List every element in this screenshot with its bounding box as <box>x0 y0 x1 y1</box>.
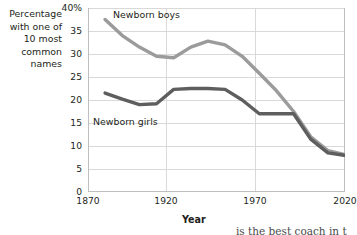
y-tick-label-30: 30 <box>56 49 82 59</box>
y-tick-label-5: 5 <box>56 164 82 174</box>
x-axis-title: Year <box>182 214 206 225</box>
y-axis-caption-line-1: Percentage <box>0 8 62 21</box>
y-tick-label-35: 35 <box>56 26 82 36</box>
y-axis-caption-line-5: names <box>0 58 62 71</box>
page-bleed-text: is the best coach in t <box>236 225 347 235</box>
y-axis-caption-line-2: with one of <box>0 21 62 34</box>
chart-figure: Percentage with one of 10 most common na… <box>0 0 357 235</box>
y-tick-label-25: 25 <box>56 72 82 82</box>
y-tick-label-40: 40% <box>54 3 82 13</box>
y-tick-label-15: 15 <box>56 118 82 128</box>
y-tick-label-20: 20 <box>56 95 82 105</box>
y-tick-label-10: 10 <box>56 141 82 151</box>
x-tick-label-1920: 1920 <box>146 196 186 206</box>
y-axis-caption: Percentage with one of 10 most common na… <box>0 8 62 71</box>
chart-svg <box>88 8 345 192</box>
y-axis-caption-line-4: common <box>0 46 62 59</box>
series-label-newborn-boys: Newborn boys <box>113 9 180 20</box>
x-tick-label-1870: 1870 <box>68 196 108 206</box>
x-tick-label-2020: 2020 <box>325 196 357 206</box>
series-label-newborn-girls: Newborn girls <box>93 116 158 127</box>
x-tick-label-1970: 1970 <box>235 196 275 206</box>
y-axis-caption-line-3: 10 most <box>0 33 62 46</box>
plot-area <box>88 8 345 192</box>
